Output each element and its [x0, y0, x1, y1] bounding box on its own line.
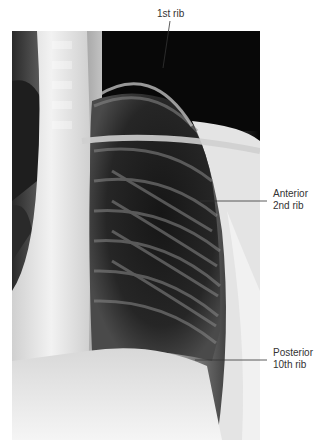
- label-text-line-2: 10th rib: [273, 359, 313, 371]
- label-anterior-2nd-rib: Anterior 2nd rib: [273, 188, 308, 212]
- label-posterior-10th-rib: Posterior 10th rib: [273, 347, 313, 371]
- label-text: 1st rib: [157, 8, 184, 20]
- label-text-line-1: Anterior: [273, 188, 308, 200]
- label-first-rib: 1st rib: [157, 8, 184, 20]
- chest-xray-image: [12, 31, 260, 440]
- label-text-line-1: Posterior: [273, 347, 313, 359]
- label-text-line-2: 2nd rib: [273, 200, 308, 212]
- xray-graphic: [12, 31, 260, 440]
